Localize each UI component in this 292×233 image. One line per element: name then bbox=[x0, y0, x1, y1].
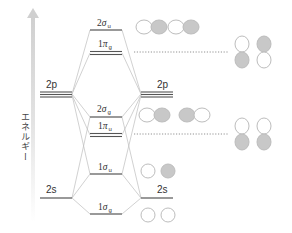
mo-label-1pi-u: 1πu bbox=[98, 121, 112, 134]
mo-label-1sigma-u: 1σu bbox=[98, 162, 112, 175]
left-2p-level bbox=[40, 92, 72, 97]
mo-label-1sigma-g: 1σg bbox=[98, 202, 112, 215]
right-2p-level bbox=[141, 92, 173, 97]
s-bonding-icon bbox=[141, 208, 175, 222]
p-pi-antibonding-icon bbox=[235, 36, 271, 68]
mo-label-2sigma-g: 2σg bbox=[97, 104, 111, 117]
right-2s-label: 2s bbox=[157, 185, 168, 195]
right-2p-label: 2p bbox=[157, 80, 168, 90]
p-pi-bonding-icon bbox=[235, 118, 271, 150]
mo-diagram: エネルギー 2p 2s 2p 2s 2σu 1πg 2σg 1πu 1σu 1σ… bbox=[0, 0, 292, 233]
p-sigma-bonding-icon bbox=[139, 108, 210, 122]
left-2s-label: 2s bbox=[46, 185, 57, 195]
energy-axis-label: エネルギー bbox=[19, 112, 32, 162]
mo-diagram-canvas bbox=[0, 0, 292, 233]
left-2p-label: 2p bbox=[46, 80, 57, 90]
mo-label-2sigma-u: 2σu bbox=[97, 18, 111, 31]
p-sigma-antibonding-icon bbox=[136, 20, 199, 34]
mo-label-1pi-g: 1πg bbox=[98, 39, 112, 52]
s-antibonding-icon bbox=[141, 164, 175, 178]
